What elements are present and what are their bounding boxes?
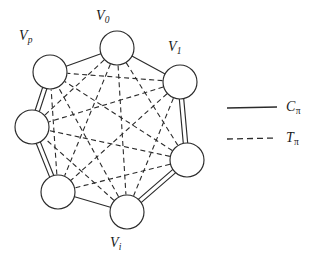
graph-node-v0 — [100, 31, 134, 65]
legend-label-tree-base: T — [286, 130, 294, 145]
legend-solid-line — [227, 107, 277, 108]
cycle-edge-v1-n2-b — [179, 99, 183, 144]
node-label-v0: V0 — [96, 9, 109, 23]
graph-node-n2 — [170, 143, 204, 177]
graph-node-n5 — [15, 110, 49, 144]
legend-label-tree-sub: π — [294, 137, 299, 147]
legend-mark-group — [227, 107, 277, 139]
chord-edge-n2-n5 — [49, 131, 170, 157]
cycle-edge-vp-v0 — [65, 54, 101, 67]
chord-edge-v0-n4 — [65, 64, 111, 176]
node-label-vi-base: V — [110, 235, 119, 250]
legend-label-cycle: Cπ — [286, 100, 300, 114]
graph-node-v1 — [163, 65, 197, 99]
node-label-v1-base: V — [168, 39, 177, 54]
graph-node-vp — [33, 55, 67, 89]
chord-edge-n2-vp — [65, 81, 173, 150]
node-group — [15, 31, 204, 229]
chord-edge-v1-vp — [67, 73, 162, 80]
node-label-vp-base: V — [19, 28, 28, 43]
node-label-vi: Vi — [110, 236, 121, 250]
chord-edge-v1-n5 — [49, 87, 164, 122]
graph-node-vi — [110, 195, 144, 229]
cycle-edge-n5-vp-a — [35, 87, 43, 111]
graph-canvas — [0, 0, 316, 266]
legend-label-cycle-sub: π — [296, 106, 301, 116]
cycle-edge-n5-vp-b — [39, 88, 47, 112]
chord-edge-n4-vp — [51, 89, 57, 174]
legend-label-tree: Tπ — [286, 131, 299, 145]
node-label-vp-sub: p — [28, 35, 33, 45]
cycle-edge-v1-n2-a — [184, 98, 188, 143]
cycle-edge-n2-vi-a — [141, 172, 176, 203]
cycle-edge-vi-n4 — [74, 197, 112, 208]
node-label-vp: Vp — [19, 29, 32, 43]
node-label-vi-sub: i — [119, 242, 122, 252]
node-label-v0-sub: 0 — [105, 15, 110, 25]
cycle-edge-v0-v1 — [131, 56, 165, 74]
node-label-v1: V1 — [168, 40, 181, 54]
chord-edge-v1-vi — [134, 98, 174, 196]
legend-label-cycle-base: C — [286, 99, 295, 114]
graph-node-n4 — [41, 175, 75, 209]
cycle-edge-n2-vi-b — [138, 169, 173, 200]
legend-dashed-line — [227, 138, 277, 139]
node-label-v1-sub: 1 — [177, 46, 182, 56]
figure-root: V0 Vp V1 Vi Cπ Tπ — [0, 0, 316, 266]
node-label-v0-base: V — [96, 8, 105, 23]
